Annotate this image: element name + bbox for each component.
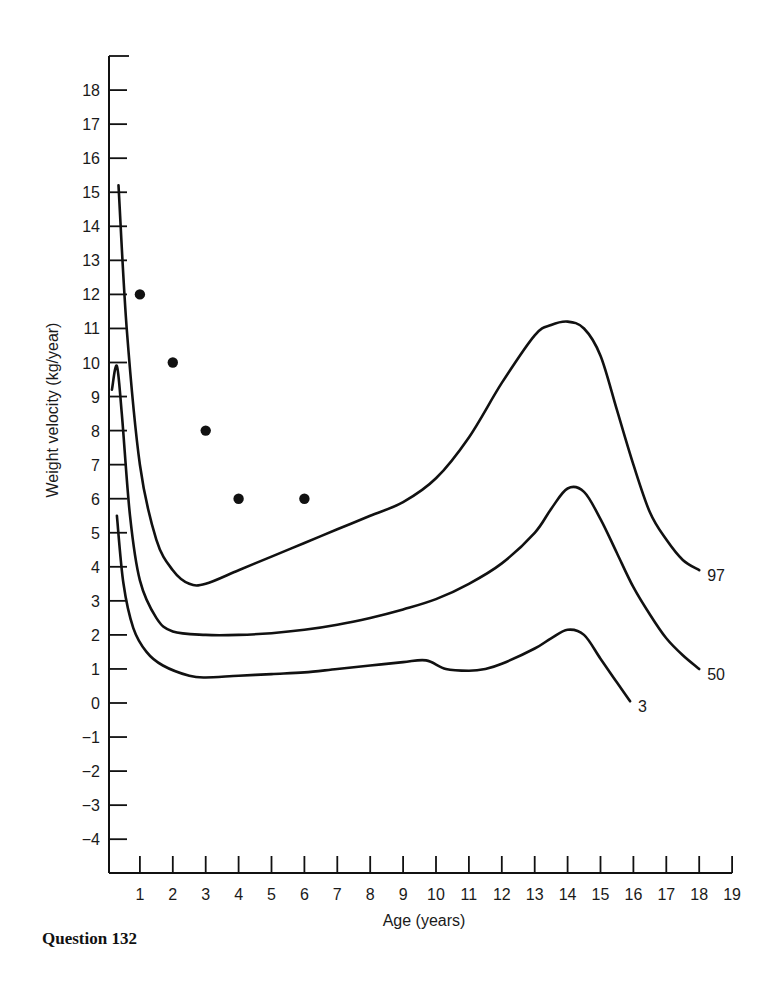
data-point — [201, 425, 211, 435]
x-tick-label: 19 — [723, 886, 741, 903]
x-tick-label: 12 — [493, 886, 511, 903]
x-tick-label: 10 — [427, 886, 445, 903]
y-tick-label: 11 — [83, 320, 100, 337]
x-tick-label: 6 — [300, 886, 309, 903]
percentile-label-97: 97 — [707, 567, 725, 584]
percentile-label-50: 50 — [707, 666, 725, 683]
y-tick-label: 6 — [91, 491, 100, 508]
x-tick-label: 16 — [625, 886, 643, 903]
y-tick-label: 5 — [91, 525, 100, 542]
x-tick-label: 18 — [690, 886, 708, 903]
x-tick-label: 13 — [526, 886, 544, 903]
y-tick-label: 13 — [82, 252, 100, 269]
y-tick-label: 1 — [91, 661, 100, 678]
y-tick-label: −1 — [82, 729, 100, 746]
x-tick-label: 2 — [168, 886, 177, 903]
x-tick-label: 5 — [267, 886, 276, 903]
y-tick-label: −3 — [82, 797, 100, 814]
y-tick-label: 2 — [91, 627, 100, 644]
percentile-curves: 97503 — [112, 185, 725, 715]
y-tick-label: 0 — [91, 695, 100, 712]
y-tick-label: −2 — [82, 763, 100, 780]
percentile-curve-3 — [117, 516, 630, 702]
y-tick-label: 3 — [91, 593, 100, 610]
x-tick-label: 17 — [657, 886, 675, 903]
x-tick-label: 7 — [333, 886, 342, 903]
y-tick-label: 17 — [82, 116, 100, 133]
x-tick-label: 3 — [201, 886, 210, 903]
x-tick-label: 11 — [461, 886, 478, 903]
y-tick-label: 14 — [82, 218, 100, 235]
y-tick-label: −4 — [82, 831, 100, 848]
y-tick-label: 9 — [91, 389, 100, 406]
y-tick-label: 4 — [91, 559, 100, 576]
x-axis-title: Age (years) — [383, 912, 466, 929]
question-caption: Question 132 — [42, 929, 137, 949]
x-tick-label: 14 — [559, 886, 577, 903]
x-axis: 12345678910111213141516171819 — [109, 856, 741, 903]
percentile-curve-97 — [119, 185, 700, 585]
percentile-label-3: 3 — [638, 698, 647, 715]
weight-velocity-chart: 1817161514131211109876543210−1−2−3−4 123… — [0, 0, 770, 987]
y-tick-label: 7 — [91, 457, 100, 474]
y-tick-label: 18 — [82, 82, 100, 99]
y-axis-title: Weight velocity (kg/year) — [44, 323, 61, 498]
x-tick-label: 8 — [366, 886, 375, 903]
data-point — [299, 494, 309, 504]
data-point — [168, 357, 178, 367]
y-axis: 1817161514131211109876543210−1−2−3−4 — [82, 56, 129, 873]
y-tick-label: 16 — [82, 150, 100, 167]
x-tick-label: 9 — [399, 886, 408, 903]
patient-data-points — [135, 289, 310, 504]
y-tick-label: 10 — [82, 355, 100, 372]
x-tick-label: 1 — [135, 886, 144, 903]
y-tick-label: 8 — [91, 423, 100, 440]
x-tick-label: 4 — [234, 886, 243, 903]
y-tick-label: 12 — [82, 286, 100, 303]
x-tick-label: 15 — [592, 886, 610, 903]
percentile-curve-50 — [112, 365, 699, 669]
data-point — [135, 289, 145, 299]
y-tick-label: 15 — [82, 184, 100, 201]
data-point — [233, 494, 243, 504]
